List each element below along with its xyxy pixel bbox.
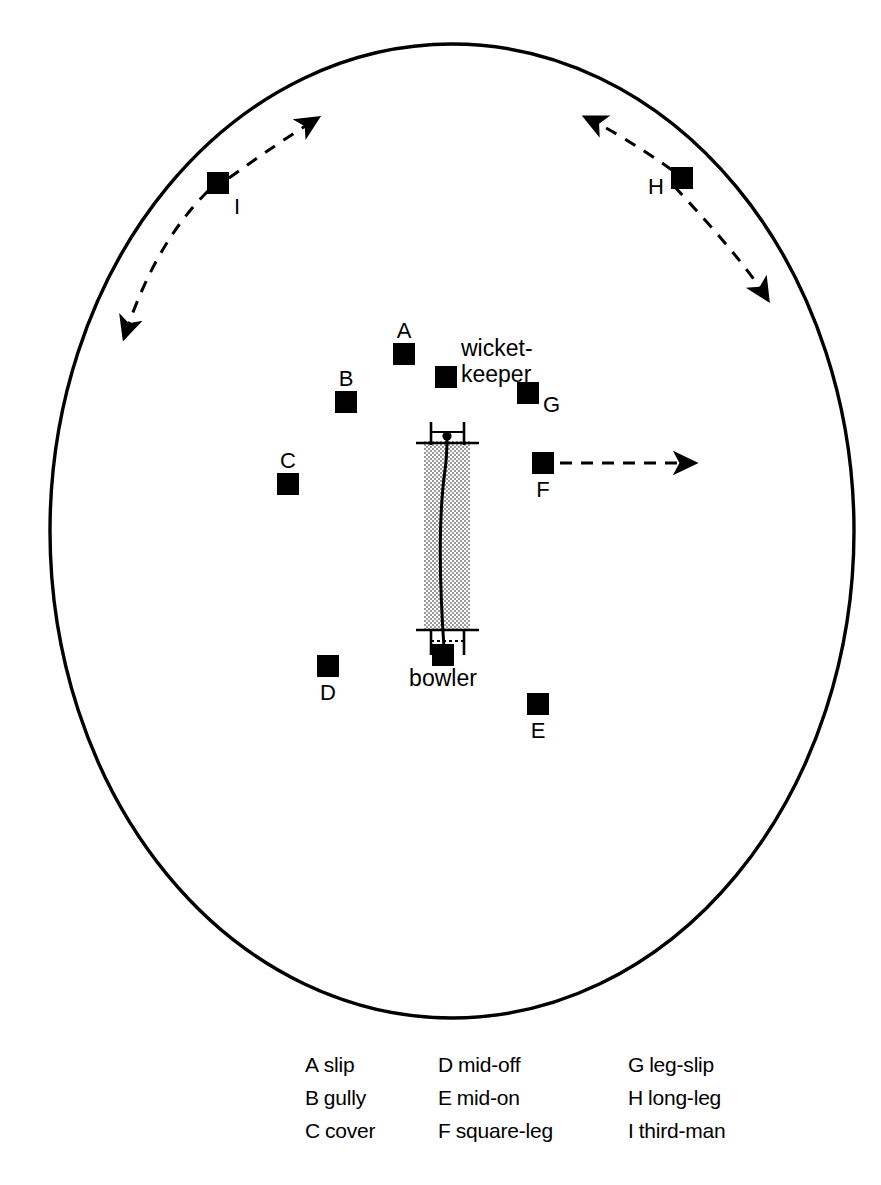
- legend-row: Aslip Dmid-off Gleg-slip: [305, 1052, 825, 1085]
- legend-item-h: Hlong-leg: [628, 1085, 818, 1111]
- legend-key-h: H: [628, 1086, 643, 1109]
- fielder-label-d: D: [320, 680, 336, 705]
- fielder-marker-a: [393, 343, 415, 365]
- legend-key-a: A: [305, 1053, 319, 1076]
- fielder-label-i: I: [234, 194, 240, 219]
- fielder-marker-i: [207, 172, 229, 194]
- long-leg-range-arrow-back: [585, 117, 672, 170]
- legend-label-d: mid-off: [458, 1053, 520, 1076]
- legend-label-a: slip: [324, 1053, 355, 1076]
- pitch: [424, 441, 470, 631]
- legend-key-c: C: [305, 1119, 320, 1142]
- cricket-field-diagram: bowler wicket- keeper A B C D E F G H I: [0, 0, 881, 1185]
- fielder-marker-h: [671, 167, 693, 189]
- legend-item-d: Dmid-off: [438, 1052, 628, 1078]
- legend-item-i: Ithird-man: [628, 1118, 818, 1144]
- fielder-marker-wicket-keeper: [435, 366, 457, 388]
- legend-key-f: F: [438, 1119, 451, 1142]
- legend-label-i: third-man: [639, 1119, 726, 1142]
- fielder-label-e: E: [531, 718, 546, 743]
- bowler-label: bowler: [409, 665, 477, 691]
- legend-item-f: Fsquare-leg: [438, 1118, 628, 1144]
- legend-label-g: leg-slip: [649, 1053, 714, 1076]
- fielder-marker-b: [335, 391, 357, 413]
- legend-row: Bgully Emid-on Hlong-leg: [305, 1085, 825, 1118]
- fielder-marker-c: [277, 473, 299, 495]
- legend-key-e: E: [438, 1086, 452, 1109]
- legend-label-c: cover: [325, 1119, 375, 1142]
- fielder-marker-d: [317, 655, 339, 677]
- fielder-label-c: C: [280, 448, 296, 473]
- legend-item-a: Aslip: [305, 1052, 438, 1078]
- legend-label-h: long-leg: [648, 1086, 721, 1109]
- legend: Aslip Dmid-off Gleg-slip Bgully Emid-on …: [305, 1052, 825, 1151]
- fielder-label-f: F: [536, 477, 549, 502]
- third-man-range-arrow-back: [124, 191, 208, 338]
- long-leg-range-arrow: [674, 186, 768, 300]
- legend-item-g: Gleg-slip: [628, 1052, 818, 1078]
- legend-item-e: Emid-on: [438, 1085, 628, 1111]
- legend-key-b: B: [305, 1086, 319, 1109]
- legend-item-b: Bgully: [305, 1085, 438, 1111]
- legend-key-i: I: [628, 1119, 634, 1142]
- legend-key-g: G: [628, 1053, 644, 1076]
- legend-key-d: D: [438, 1053, 453, 1076]
- fielder-label-h: H: [648, 174, 664, 199]
- wicket-keeper-label-line1: wicket-: [460, 335, 533, 361]
- fielder-label-b: B: [339, 366, 354, 391]
- legend-row: Ccover Fsquare-leg Ithird-man: [305, 1118, 825, 1151]
- third-man-range-arrow: [229, 118, 318, 178]
- legend-label-e: mid-on: [457, 1086, 520, 1109]
- fielder-marker-f: [532, 452, 554, 474]
- legend-item-c: Ccover: [305, 1118, 438, 1144]
- fielder-marker-e: [527, 693, 549, 715]
- legend-label-f: square-leg: [456, 1119, 553, 1142]
- fielder-label-a: A: [397, 318, 412, 343]
- fielder-marker-bowler: [432, 644, 454, 666]
- fielder-marker-g: [517, 382, 539, 404]
- legend-label-b: gully: [324, 1086, 366, 1109]
- fielder-label-g: G: [543, 392, 560, 417]
